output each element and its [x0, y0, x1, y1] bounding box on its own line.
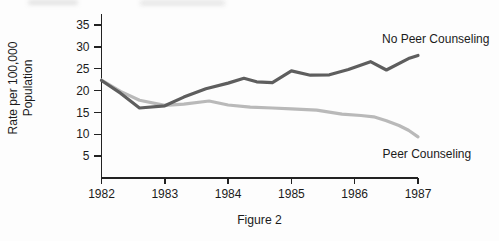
y-tick-label: 30 — [76, 40, 90, 54]
y-tick-label: 10 — [76, 127, 90, 141]
y-axis-title: Rate per 100,000 Population — [6, 38, 38, 138]
y-tick-label: 25 — [76, 62, 90, 76]
x-tick-label: 1983 — [151, 187, 178, 201]
y-axis-title-line2: Population — [21, 38, 36, 138]
series-label-peer-counseling: Peer Counseling — [382, 147, 471, 161]
x-tick-label: 1984 — [215, 187, 242, 201]
scan-artifact — [28, 0, 78, 5]
y-tick-label: 5 — [83, 149, 90, 163]
figure-caption: Figure 2 — [101, 213, 418, 227]
scan-artifact — [140, 0, 225, 6]
y-tick-label: 35 — [76, 18, 90, 32]
series-label-no-peer-counseling: No Peer Counseling — [382, 32, 489, 46]
y-axis-title-line1: Rate per 100,000 — [6, 38, 21, 138]
x-tick-label: 1985 — [278, 187, 305, 201]
x-tick-label: 1982 — [88, 187, 115, 201]
y-tick-label: 20 — [76, 84, 90, 98]
chart-canvas: 3530252015105198219831984198519861987Pee… — [0, 0, 499, 241]
series-line-no-peer-counseling — [102, 56, 419, 109]
y-tick-label: 15 — [76, 106, 90, 120]
figure-2-line-chart: 3530252015105198219831984198519861987Pee… — [0, 0, 499, 241]
x-tick-label: 1987 — [405, 187, 432, 201]
x-tick-label: 1986 — [341, 187, 368, 201]
